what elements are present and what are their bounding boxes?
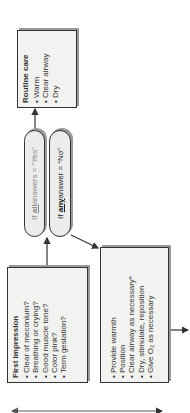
decision-keyword: all: [30, 204, 39, 213]
first-impression-item: Clear of meconium?: [22, 272, 31, 378]
decision-prefix: If: [56, 215, 65, 219]
decision-all-yes: If all answers = “Yes”: [24, 130, 45, 237]
flowchart: Routine care Warm Clear airway Dry If al…: [0, 0, 190, 413]
routine-care-item: Dry: [51, 35, 60, 103]
routine-care-box: Routine care Warm Clear airway Dry: [17, 30, 77, 108]
initial-steps-box: Provide warmth Position Clear airway as …: [100, 247, 169, 383]
first-impression-item: Term gestation?: [59, 272, 68, 378]
arrow-no-to-initial-steps: [71, 235, 98, 248]
initial-steps-item: Clear airway as necessary*: [127, 252, 136, 378]
initial-steps-item: Give O₂ as necessary: [146, 252, 155, 378]
routine-care-item: Clear airway: [41, 35, 50, 103]
initial-steps-item: Dry, stimulate, reposition: [137, 252, 146, 378]
decision-any-no: If any answer = “No”: [49, 130, 71, 237]
decision-suffix: answer = “No”: [56, 148, 65, 198]
first-impression-title: First Impression: [11, 272, 20, 378]
decision-suffix: answers = “Yes”: [30, 147, 39, 204]
decision-keyword: any: [56, 199, 65, 213]
first-impression-item: Color pink?: [50, 272, 59, 378]
decision-prefix: If: [30, 216, 39, 220]
first-impression-item: Good muscle tone?: [41, 272, 50, 378]
first-impression-item: Breathing or crying?: [31, 272, 40, 378]
routine-care-title: Routine care: [21, 35, 30, 103]
first-impression-box: First Impression Clear of meconium? Brea…: [7, 267, 88, 383]
routine-care-item: Warm: [32, 35, 41, 103]
initial-steps-item: Provide warmth: [109, 252, 118, 378]
initial-steps-item: Position: [118, 252, 127, 378]
